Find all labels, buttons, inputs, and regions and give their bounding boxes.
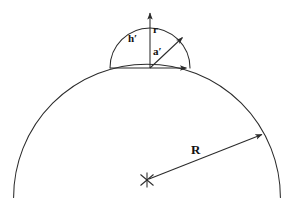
label-cap-height: h′	[128, 33, 137, 44]
geometry-canvas	[0, 0, 294, 207]
geometry-figure: h′ r a′ R	[0, 0, 294, 207]
label-cap-radius: r	[153, 24, 158, 35]
substrate-center-cross	[141, 173, 154, 188]
label-contact-radius: a′	[153, 46, 162, 57]
label-substrate-radius: R	[191, 143, 200, 156]
substrate-radius-arrow	[149, 135, 262, 180]
